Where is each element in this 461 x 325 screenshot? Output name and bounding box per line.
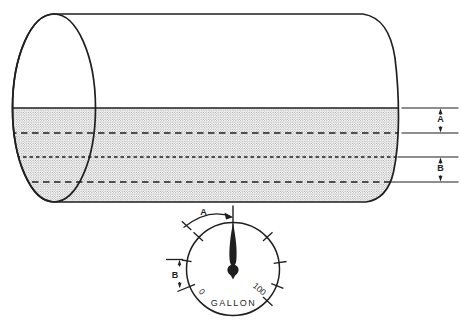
gauge-dim-a-label: A: [200, 207, 207, 217]
gauge-dim-b-label: B: [172, 270, 179, 280]
liquid-fill: [13, 108, 399, 202]
arrow-down-icon: [439, 127, 443, 133]
gauge-dim-b: B: [166, 260, 183, 289]
tank-and-gauge-diagram: A B: [0, 0, 461, 325]
gauge-needle-body: [229, 223, 236, 267]
figure-canvas: A B: [0, 0, 461, 325]
gauge-dim-a-arc: [184, 214, 232, 228]
gauge-max-label: 100: [251, 281, 268, 298]
gauge-tick: [182, 260, 192, 262]
arrow-up-icon: [178, 260, 182, 266]
gauge-tick: [263, 297, 273, 306]
arrow-down-icon: [178, 283, 182, 289]
arrow-down-icon: [439, 176, 443, 182]
gauge-dim-a: A: [182, 207, 233, 231]
tank: A B: [10, 14, 459, 202]
gauge-unit-label: GALLON: [211, 298, 257, 308]
tank-dim-b-label: B: [437, 163, 444, 173]
gauge-max: 100: [251, 281, 268, 298]
gauge-tick: [274, 262, 287, 264]
fuel-gauge: A B 0 100 GALLON: [166, 206, 287, 316]
gauge-tick: [263, 232, 273, 241]
tank-dim-a-label: A: [437, 114, 444, 124]
tank-dim-a: A: [437, 109, 444, 133]
tank-dim-b: B: [437, 158, 444, 182]
gauge-tick: [194, 232, 204, 241]
gauge-min-label: 0: [197, 286, 208, 297]
arrow-right-icon: [225, 213, 234, 220]
gauge-min: 0: [197, 286, 208, 297]
